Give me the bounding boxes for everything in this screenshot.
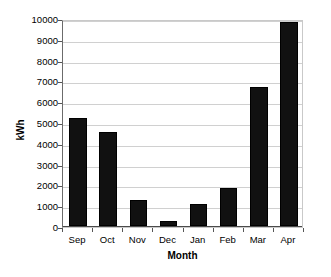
x-axis-tick-mark xyxy=(92,228,93,232)
y-axis-tick-label: 6000 xyxy=(24,98,58,108)
y-axis-tick-label: 8000 xyxy=(24,57,58,67)
y-axis-tick-mark xyxy=(58,207,62,208)
x-axis-tick-label: Jan xyxy=(183,234,213,245)
bar xyxy=(190,204,207,226)
x-axis-tick-mark xyxy=(213,228,214,232)
y-axis-tick-mark xyxy=(58,166,62,167)
bar xyxy=(250,87,267,226)
bars-layer xyxy=(63,21,302,227)
y-axis-tick-label: 5000 xyxy=(24,119,58,129)
x-axis-tick-label-group: SepOctNovDecJanFebMarApr xyxy=(62,234,303,248)
x-axis-tick-label: Sep xyxy=(62,234,92,245)
y-axis-tick-label: 7000 xyxy=(24,78,58,88)
y-axis-tick-mark xyxy=(58,103,62,104)
x-axis-tick-mark xyxy=(152,228,153,232)
bar xyxy=(130,200,147,226)
bar xyxy=(99,132,116,226)
x-axis-title: Month xyxy=(62,250,303,261)
x-baseline-axis xyxy=(63,226,302,227)
x-axis-tick-label: Nov xyxy=(122,234,152,245)
x-axis-tick-label: Oct xyxy=(92,234,122,245)
x-axis-tick-label: Feb xyxy=(213,234,243,245)
y-axis-tick-mark xyxy=(58,124,62,125)
y-axis-tick-label: 0 xyxy=(24,223,58,233)
x-axis-tick-mark xyxy=(273,228,274,232)
y-axis-tick-mark xyxy=(58,186,62,187)
x-axis-tick-label: Apr xyxy=(273,234,303,245)
x-axis-tick-mark xyxy=(303,228,304,232)
y-axis-tick-label: 9000 xyxy=(24,36,58,46)
x-axis-tick-mark xyxy=(62,228,63,232)
y-axis-tick-mark xyxy=(58,20,62,21)
y-axis-tick-label: 4000 xyxy=(24,140,58,150)
plot-area xyxy=(62,20,303,228)
y-axis-tick-mark xyxy=(58,145,62,146)
x-axis-tick-label: Dec xyxy=(152,234,182,245)
y-axis-tick-label: 2000 xyxy=(24,182,58,192)
x-axis-tick-mark xyxy=(183,228,184,232)
y-axis-tick-label: 1000 xyxy=(24,202,58,212)
bar xyxy=(220,188,237,226)
y-axis-tick-mark xyxy=(58,41,62,42)
bar xyxy=(69,118,86,226)
x-axis-tick-mark xyxy=(243,228,244,232)
y-axis-tick-label-group: 0100020003000400050006000700080009000100… xyxy=(24,20,58,228)
x-axis-tick-mark xyxy=(122,228,123,232)
bar-chart-figure: kWh 010002000300040005000600070008000900… xyxy=(0,0,331,277)
y-axis-tick-mark xyxy=(58,82,62,83)
y-axis-tick-label: 3000 xyxy=(24,161,58,171)
y-axis-tick-label: 10000 xyxy=(24,15,58,25)
bar xyxy=(280,22,297,226)
y-axis-tick-mark xyxy=(58,62,62,63)
x-axis-tick-label: Mar xyxy=(243,234,273,245)
